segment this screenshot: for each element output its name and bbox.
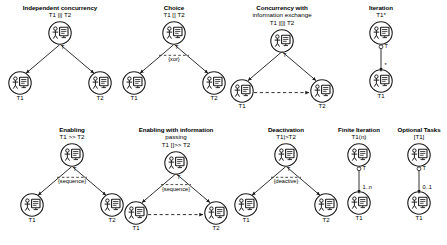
root-edge-label: T bbox=[283, 52, 286, 59]
child-label-1: T1 bbox=[121, 225, 151, 232]
child-label-1: T1 bbox=[344, 215, 374, 222]
child-label-2: T2 bbox=[307, 103, 337, 110]
child-label-1: T1 bbox=[119, 95, 149, 102]
multiplicity-label: * bbox=[385, 62, 387, 69]
child-label-2: T2 bbox=[199, 95, 229, 102]
child-label-2: T2 bbox=[85, 95, 115, 102]
constraint-label: {deactive} bbox=[230, 178, 342, 185]
root-edge-label: T bbox=[61, 44, 64, 51]
child-label-1: T1 bbox=[366, 93, 396, 100]
root-edge-label: T bbox=[175, 44, 178, 51]
panel-independent-concurrency: Independent concurrencyT1 ||| T2 bbox=[4, 4, 116, 114]
connectors bbox=[120, 126, 232, 236]
panel-finite-iteration: Finite IterationT1(n) bbox=[330, 126, 388, 236]
panel-concurrency-with-information-exchange: Concurrency withinformation exchangeT1 |… bbox=[226, 4, 338, 114]
connectors bbox=[226, 4, 338, 114]
panel-enabling-with-information-passing: Enabling with informationpassingT1 []>> … bbox=[120, 126, 232, 236]
child-label-1: T1 bbox=[17, 217, 47, 224]
diagram-canvas: Independent concurrencyT1 ||| T2 bbox=[0, 0, 447, 245]
constraint-label: {sequence} bbox=[120, 186, 232, 193]
child-label-1: T1 bbox=[227, 103, 257, 110]
panel-enabling: EnablingT1 >> T2 bbox=[16, 126, 128, 236]
root-edge-label: T bbox=[73, 166, 76, 173]
child-label-1: T1 bbox=[404, 215, 434, 222]
constraint-label: {xor} bbox=[118, 56, 230, 63]
multiplicity-label: 1..n bbox=[363, 184, 372, 191]
panel-iteration: IterationT1* bbox=[352, 4, 410, 114]
constraint-label: {sequence} bbox=[16, 178, 128, 185]
panel-optional-tasks: Optional Tasks[T1] bbox=[390, 126, 447, 236]
root-edge-label: T bbox=[423, 165, 426, 172]
root-edge-label: T bbox=[287, 166, 290, 173]
child-label-1: T1 bbox=[5, 95, 35, 102]
panel-deactivation: DeactivationT1|>T2 bbox=[230, 126, 342, 236]
multiplicity-label: 0..1 bbox=[423, 184, 432, 191]
child-label-1: T1 bbox=[231, 217, 261, 224]
root-edge-label: T bbox=[385, 43, 388, 50]
panel-choice: ChoiceT1 [] T2 bbox=[118, 4, 230, 114]
root-edge-label: T bbox=[177, 174, 180, 181]
child-label-2: T2 bbox=[201, 225, 231, 232]
root-edge-label: T bbox=[363, 165, 366, 172]
